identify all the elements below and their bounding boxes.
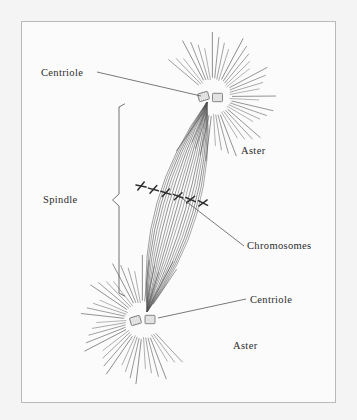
label-centriole-bottom: Centriole — [250, 295, 292, 306]
label-chromosomes: Chromosomes — [247, 241, 312, 252]
label-centriole-top: Centriole — [41, 68, 83, 79]
label-aster-top: Aster — [241, 146, 266, 157]
label-aster-bottom: Aster — [233, 341, 258, 352]
figure-page: Centriole Aster Spindle Chromosomes Cent… — [0, 0, 357, 420]
label-spindle: Spindle — [43, 195, 78, 206]
